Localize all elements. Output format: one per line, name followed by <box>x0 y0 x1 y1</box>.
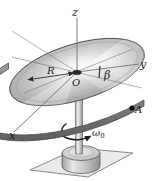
z-axis-label: z <box>72 7 78 18</box>
origin-label: O <box>72 78 80 88</box>
y-axis-label: y <box>140 59 146 70</box>
radius-label: R <box>47 66 55 76</box>
support-column <box>76 97 83 154</box>
x-axis-label: x <box>9 130 15 141</box>
angular-velocity-label: ω0 <box>92 128 105 140</box>
physics-diagram-figure: z y x R O β A ω0 <box>0 0 157 181</box>
angular-velocity-symbol: ω <box>92 127 100 138</box>
tilt-angle-label: β <box>104 70 110 81</box>
diagram-canvas <box>0 0 157 181</box>
angular-velocity-subscript: 0 <box>100 132 104 140</box>
point-a-label: A <box>135 105 142 115</box>
point-a-marker <box>129 105 134 110</box>
center-hub <box>73 70 81 74</box>
